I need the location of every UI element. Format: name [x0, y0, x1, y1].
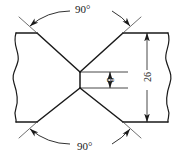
angle-label-top: 90°: [75, 4, 90, 15]
break-line-right: [166, 33, 171, 122]
drawing-canvas: 90° 90° 8 26: [0, 0, 183, 164]
bevel-bottom-left: [37, 88, 80, 122]
ext-bevel-bottom-left: [19, 122, 37, 138]
angle-arc-bottom-right: [112, 129, 130, 144]
angle-arc-top-right: [112, 11, 130, 26]
bevel-bottom-right: [80, 88, 123, 122]
ext-bevel-top-left: [19, 17, 37, 33]
ext-bevel-bottom-right: [123, 122, 141, 138]
break-line-left: [13, 33, 18, 122]
angle-arc-bottom-left: [30, 129, 70, 144]
ext-bevel-top-right: [123, 17, 141, 33]
bevel-top-left: [37, 33, 80, 72]
angle-label-bottom: 90°: [77, 141, 92, 152]
root-face-label: 8: [106, 76, 116, 85]
bevel-top-right: [80, 33, 123, 72]
angle-arc-top-left: [30, 11, 70, 26]
thickness-label: 26: [143, 71, 153, 84]
